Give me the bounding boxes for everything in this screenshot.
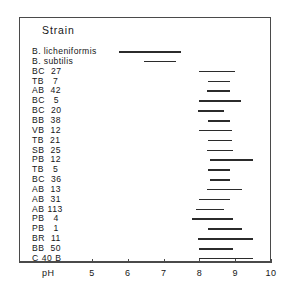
ph-range-chart: Strain B. licheniformisB. subtilisBC 27T… bbox=[0, 0, 292, 299]
x-axis-tick-label: 10 bbox=[259, 268, 283, 278]
strain-row-label: BC 5 bbox=[32, 95, 59, 105]
strain-row-label: BR 11 bbox=[32, 233, 61, 243]
strain-row: TB 7 bbox=[0, 76, 292, 86]
x-axis-tick bbox=[128, 259, 129, 263]
strain-row: AB 113 bbox=[0, 204, 292, 214]
strain-row-label: TB 7 bbox=[32, 76, 58, 86]
ph-range-bar bbox=[199, 100, 240, 102]
strain-row: SB 25 bbox=[0, 145, 292, 155]
strain-row-label: SB 25 bbox=[32, 145, 61, 155]
strain-row: PB 1 bbox=[0, 223, 292, 233]
ph-range-bar bbox=[210, 179, 230, 181]
ph-range-bar bbox=[196, 209, 225, 211]
ph-range-bar bbox=[210, 159, 253, 161]
ph-range-bar bbox=[208, 140, 231, 142]
strain-row-label: PB 4 bbox=[32, 213, 59, 223]
ph-range-bar bbox=[199, 248, 233, 250]
ph-range-bar bbox=[208, 169, 229, 171]
ph-range-bar bbox=[208, 81, 229, 83]
strain-row-label: PB 12 bbox=[32, 154, 61, 164]
x-axis-tick-label: 9 bbox=[223, 268, 247, 278]
x-axis-tick-label: 7 bbox=[152, 268, 176, 278]
strain-row: TB 21 bbox=[0, 135, 292, 145]
strain-row: BR 11 bbox=[0, 233, 292, 243]
ph-range-bar bbox=[199, 130, 231, 132]
strain-row: B. licheniformis bbox=[0, 46, 292, 56]
strain-row: BC 5 bbox=[0, 95, 292, 105]
strain-row-label: BB 50 bbox=[32, 243, 61, 253]
strain-row: AB 31 bbox=[0, 194, 292, 204]
strain-row-label: AB 31 bbox=[32, 194, 61, 204]
strain-row: BB 50 bbox=[0, 243, 292, 253]
ph-range-bar bbox=[208, 120, 229, 122]
x-axis-tick-label: 6 bbox=[116, 268, 140, 278]
ph-range-bar bbox=[198, 110, 225, 112]
x-axis-tick bbox=[271, 259, 272, 263]
ph-range-bar bbox=[207, 150, 234, 152]
strain-row-label: TB 21 bbox=[32, 135, 61, 145]
strain-row-label: AB 42 bbox=[32, 85, 61, 95]
x-axis-tick-label: 5 bbox=[80, 268, 104, 278]
strain-row: BC 27 bbox=[0, 66, 292, 76]
strain-row-label: VB 12 bbox=[32, 125, 61, 135]
ph-range-bar bbox=[199, 199, 229, 201]
strain-row: TB 5 bbox=[0, 164, 292, 174]
strain-row-label: BC 36 bbox=[32, 174, 62, 184]
strain-row-label: BC 27 bbox=[32, 66, 62, 76]
strain-row: B. subtilis bbox=[0, 56, 292, 66]
ph-range-bar bbox=[119, 51, 182, 53]
x-axis-tick bbox=[199, 259, 200, 263]
strain-row-label: AB 13 bbox=[32, 184, 61, 194]
strain-row: PB 4 bbox=[0, 213, 292, 223]
strain-row-label: B. subtilis bbox=[32, 56, 73, 66]
strain-row: AB 13 bbox=[0, 184, 292, 194]
strain-row-label: BB 38 bbox=[32, 115, 61, 125]
strain-row-label: PB 1 bbox=[32, 223, 59, 233]
strain-row: BC 20 bbox=[0, 105, 292, 115]
ph-range-bar bbox=[192, 218, 233, 220]
strain-row-label: AB 113 bbox=[32, 204, 63, 214]
x-axis-line bbox=[19, 262, 272, 263]
x-axis-tick-label: 8 bbox=[187, 268, 211, 278]
ph-range-bar bbox=[207, 189, 243, 191]
strain-row-label: B. licheniformis bbox=[32, 46, 97, 56]
ph-range-bar bbox=[207, 90, 230, 92]
strain-row: PB 12 bbox=[0, 154, 292, 164]
x-axis-tick bbox=[92, 259, 93, 263]
strain-rows: B. licheniformisB. subtilisBC 27TB 7AB 4… bbox=[0, 0, 292, 299]
strain-row-label: BC 20 bbox=[32, 105, 62, 115]
strain-row: BB 38 bbox=[0, 115, 292, 125]
ph-range-bar bbox=[198, 238, 253, 240]
x-axis-tick bbox=[164, 259, 165, 263]
x-axis-tick bbox=[235, 259, 236, 263]
ph-range-bar bbox=[199, 71, 235, 73]
strain-row: AB 42 bbox=[0, 85, 292, 95]
x-axis-label: pH bbox=[42, 268, 54, 278]
strain-row: BC 36 bbox=[0, 174, 292, 184]
ph-range-bar bbox=[208, 228, 242, 230]
strain-row: VB 12 bbox=[0, 125, 292, 135]
strain-row-label: TB 5 bbox=[32, 164, 58, 174]
ph-range-bar bbox=[199, 258, 253, 260]
ph-range-bar bbox=[144, 61, 176, 63]
